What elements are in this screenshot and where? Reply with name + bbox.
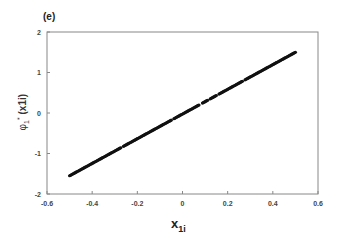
x-tick-label: 0.2 (223, 200, 233, 207)
y-label-arg: (x1i) (17, 94, 28, 115)
y-tick-label: 0 (37, 110, 41, 117)
x-tick-label: -0.6 (41, 200, 53, 207)
chart-container: (e) -0.6-0.4-0.200.20.40.6-2-1012 φ1* (x… (0, 0, 341, 238)
data-point (197, 103, 200, 106)
y-tick-label: -2 (35, 191, 41, 198)
y-label-sup: * (16, 117, 23, 120)
y-axis-label: φ1* (x1i) (16, 77, 30, 147)
data-series (68, 51, 297, 178)
x-tick-label: -0.4 (86, 200, 98, 207)
x-tick-label: 0.4 (268, 200, 278, 207)
plot-area: -0.6-0.4-0.200.20.40.6-2-1012 (0, 0, 341, 238)
x-tick-label: 0.6 (313, 200, 323, 207)
x-tick-label: 0 (181, 200, 185, 207)
y-label-sub: 1 (23, 120, 30, 124)
y-label-main: φ (17, 124, 28, 130)
y-tick-label: -1 (35, 150, 41, 157)
x-axis-label: x1i (171, 216, 186, 234)
data-point (294, 51, 297, 54)
x-tick-label: -0.2 (131, 200, 143, 207)
x-label-sub: 1i (178, 224, 186, 234)
y-tick-label: 1 (37, 69, 41, 76)
y-tick-label: 2 (37, 29, 41, 36)
